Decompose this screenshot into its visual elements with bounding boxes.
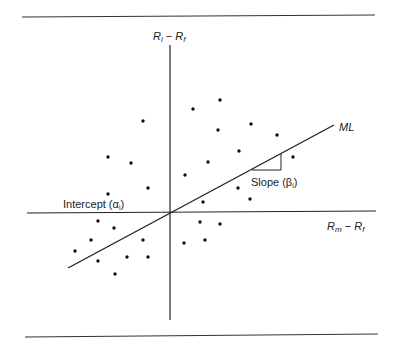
data-point	[89, 238, 92, 241]
data-point	[125, 255, 128, 258]
data-point	[206, 160, 209, 163]
x-axis-label: Rm − Rf	[327, 220, 365, 234]
data-point	[96, 219, 99, 222]
data-point	[236, 186, 239, 189]
data-point	[198, 220, 201, 223]
bottom-rule	[25, 334, 378, 337]
data-point	[191, 107, 194, 110]
data-point	[146, 186, 149, 189]
y-axis-label: Ri − Rf	[153, 30, 186, 44]
data-point	[106, 192, 109, 195]
data-point	[146, 255, 149, 258]
characteristic-line-diagram: Ri − Rf Rm − Rf ML Intercept (αi) Slope …	[0, 0, 399, 349]
ml-label: ML	[339, 121, 354, 133]
data-point	[183, 173, 186, 176]
data-point	[249, 122, 252, 125]
data-point	[203, 238, 206, 241]
data-point	[141, 238, 144, 241]
data-point	[291, 155, 294, 158]
data-point	[218, 222, 221, 225]
x-axis	[27, 211, 376, 213]
data-point	[237, 149, 240, 152]
data-point	[73, 249, 76, 252]
data-point	[216, 128, 219, 131]
slope-label: Slope (βi)	[251, 176, 297, 189]
intercept-label: Intercept (αi)	[63, 198, 124, 211]
data-point	[106, 155, 109, 158]
data-point	[218, 98, 221, 101]
data-point	[112, 226, 115, 229]
data-point	[275, 133, 278, 136]
data-point	[248, 197, 251, 200]
data-point	[201, 200, 204, 203]
data-point	[129, 161, 132, 164]
top-rule	[22, 15, 375, 17]
market-line	[68, 125, 334, 268]
data-point	[141, 119, 144, 122]
data-point	[96, 259, 99, 262]
data-point	[182, 241, 185, 244]
data-point	[113, 272, 116, 275]
